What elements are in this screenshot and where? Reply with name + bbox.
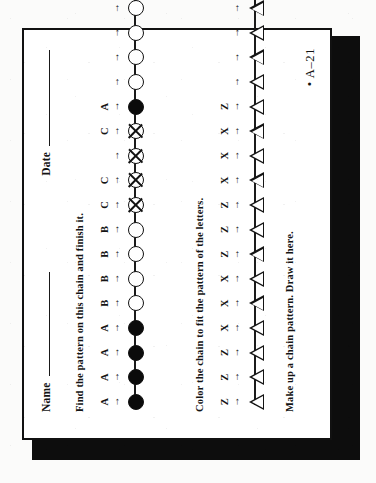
chain-bead-cell[interactable]: → <box>218 70 264 95</box>
chain-bead[interactable] <box>128 49 144 65</box>
chain-bead[interactable] <box>128 246 144 262</box>
chain-bead-cell[interactable]: → <box>98 70 144 95</box>
triangle-bead-open-icon[interactable] <box>249 246 264 262</box>
chain-circles[interactable]: A→A→A→A→B→B→B→B→C→C→→C→A→→→→→→→ <box>98 0 144 414</box>
circle-bead-crossed-icon[interactable] <box>128 148 144 164</box>
chain-bead-cell[interactable]: → <box>218 0 264 21</box>
chain-bead[interactable] <box>249 345 264 361</box>
chain-bead-cell[interactable]: → <box>218 45 264 70</box>
chain-bead-cell[interactable]: B→ <box>98 266 144 291</box>
circle-bead-open-icon[interactable] <box>128 49 144 65</box>
chain-bead-cell[interactable]: X→ <box>218 291 264 316</box>
chain-bead[interactable] <box>249 25 264 41</box>
chain-bead[interactable] <box>128 271 144 287</box>
chain-bead-cell[interactable]: B→ <box>98 217 144 242</box>
circle-bead-solid-icon[interactable] <box>128 345 144 361</box>
chain-bead-cell[interactable]: X→ <box>218 266 264 291</box>
chain-bead[interactable] <box>128 0 144 16</box>
triangle-bead-open-icon[interactable] <box>249 369 264 385</box>
triangle-bead-open-icon[interactable] <box>249 25 264 41</box>
chain-bead[interactable] <box>128 74 144 90</box>
chain-bead[interactable] <box>249 369 264 385</box>
chain-bead-cell[interactable]: A→ <box>98 316 144 341</box>
chain-bead-cell[interactable]: Z→ <box>218 365 264 390</box>
chain-bead-cell[interactable]: Z→ <box>218 340 264 365</box>
chain-bead-cell[interactable]: Z→ <box>218 389 264 414</box>
triangle-bead-open-icon[interactable] <box>249 271 264 287</box>
chain-bead[interactable] <box>249 246 264 262</box>
triangle-bead-open-icon[interactable] <box>249 123 264 139</box>
chain-bead-cell[interactable]: Z→ <box>218 217 264 242</box>
chain-bead-cell[interactable]: X→ <box>218 119 264 144</box>
chain-bead[interactable] <box>128 148 144 164</box>
triangle-bead-open-icon[interactable] <box>249 49 264 65</box>
chain-bead[interactable] <box>249 49 264 65</box>
circle-bead-crossed-icon[interactable] <box>128 172 144 188</box>
chain-bead-cell[interactable]: A→ <box>98 389 144 414</box>
chain-bead[interactable] <box>249 74 264 90</box>
chain-bead[interactable] <box>249 394 264 410</box>
triangle-bead-open-icon[interactable] <box>249 320 264 336</box>
chain-bead-cell[interactable]: → <box>98 143 144 168</box>
name-write-line[interactable] <box>49 272 50 376</box>
triangle-bead-open-icon[interactable] <box>249 197 264 213</box>
chain-bead[interactable] <box>249 172 264 188</box>
chain-bead[interactable] <box>128 345 144 361</box>
chain-bead[interactable] <box>249 148 264 164</box>
chain-bead-cell[interactable]: A→ <box>98 340 144 365</box>
chain-bead-cell[interactable]: C→ <box>98 119 144 144</box>
circle-bead-crossed-icon[interactable] <box>128 123 144 139</box>
circle-bead-open-icon[interactable] <box>128 0 144 16</box>
circle-bead-crossed-icon[interactable] <box>128 197 144 213</box>
circle-bead-solid-icon[interactable] <box>128 99 144 115</box>
chain-bead-cell[interactable]: A→ <box>98 365 144 390</box>
chain-bead-cell[interactable]: C→ <box>98 168 144 193</box>
circle-bead-open-icon[interactable] <box>128 246 144 262</box>
chain-bead[interactable] <box>128 197 144 213</box>
chain-bead[interactable] <box>128 99 144 115</box>
chain-bead-cell[interactable]: Z→ <box>218 94 264 119</box>
chain-bead[interactable] <box>128 320 144 336</box>
chain-bead[interactable] <box>128 394 144 410</box>
circle-bead-open-icon[interactable] <box>128 74 144 90</box>
chain-bead-cell[interactable]: → <box>98 45 144 70</box>
circle-bead-open-icon[interactable] <box>128 271 144 287</box>
chain-bead[interactable] <box>249 99 264 115</box>
chain-bead-cell[interactable]: B→ <box>98 291 144 316</box>
chain-bead-cell[interactable]: X→ <box>218 143 264 168</box>
triangle-bead-open-icon[interactable] <box>249 148 264 164</box>
chain-bead-cell[interactable]: → <box>218 21 264 46</box>
chain-bead-cell[interactable]: A→ <box>98 94 144 119</box>
chain-triangles[interactable]: Z→Z→Z→X→X→X→Z→Z→Z→X→X→X→Z→→→→→→→ <box>218 0 264 414</box>
triangle-bead-open-icon[interactable] <box>249 99 264 115</box>
date-write-line[interactable] <box>49 50 50 146</box>
chain-bead[interactable] <box>128 222 144 238</box>
triangle-bead-open-icon[interactable] <box>249 74 264 90</box>
chain-bead[interactable] <box>249 0 264 16</box>
circle-bead-solid-icon[interactable] <box>128 394 144 410</box>
triangle-bead-open-icon[interactable] <box>249 222 264 238</box>
chain-bead-cell[interactable]: Z→ <box>218 242 264 267</box>
chain-bead-cell[interactable]: X→ <box>218 168 264 193</box>
circle-bead-open-icon[interactable] <box>128 25 144 41</box>
chain-bead[interactable] <box>249 222 264 238</box>
triangle-bead-open-icon[interactable] <box>249 295 264 311</box>
chain-bead-cell[interactable]: → <box>98 0 144 21</box>
chain-bead[interactable] <box>249 295 264 311</box>
chain-bead[interactable] <box>128 25 144 41</box>
chain-bead-cell[interactable]: X→ <box>218 316 264 341</box>
chain-bead-cell[interactable]: → <box>98 21 144 46</box>
chain-bead[interactable] <box>249 123 264 139</box>
chain-bead[interactable] <box>128 295 144 311</box>
chain-bead[interactable] <box>128 123 144 139</box>
circle-bead-solid-icon[interactable] <box>128 320 144 336</box>
triangle-bead-open-icon[interactable] <box>249 0 264 16</box>
triangle-bead-open-icon[interactable] <box>249 172 264 188</box>
circle-bead-open-icon[interactable] <box>128 295 144 311</box>
chain-bead-cell[interactable]: C→ <box>98 193 144 218</box>
chain-bead-cell[interactable]: Z→ <box>218 193 264 218</box>
triangle-bead-open-icon[interactable] <box>249 345 264 361</box>
chain-bead-cell[interactable]: B→ <box>98 242 144 267</box>
chain-bead[interactable] <box>249 320 264 336</box>
circle-bead-solid-icon[interactable] <box>128 369 144 385</box>
